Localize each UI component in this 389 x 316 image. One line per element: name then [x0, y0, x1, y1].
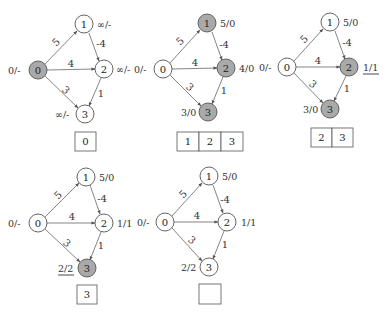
queue-item: 0	[82, 136, 88, 147]
panel-step-1: 5 -4 4 3 1 0 0/- 1 ∞/- 2 ∞/- 3 ∞/- 0	[8, 15, 130, 151]
distance-label: ∞/-	[97, 19, 111, 30]
graph-node: 2 1/1	[340, 58, 379, 76]
distance-label: ∞/-	[55, 109, 69, 120]
graph-node: 2 1/1	[95, 214, 132, 232]
graph-node: 1 5/0	[321, 13, 358, 31]
edge-weight: 5	[177, 188, 189, 200]
distance-label: 1/1	[363, 62, 378, 73]
node-label: 2	[346, 62, 352, 73]
node-label: 2	[223, 63, 229, 74]
queue-box: 2 3	[311, 128, 353, 147]
graph-node: 3 3/0	[303, 100, 339, 118]
node-label: 0	[35, 218, 41, 229]
graph-node: 3 3/0	[181, 103, 217, 121]
graph-node: 2 1/1	[218, 213, 256, 231]
node-label: 3	[206, 262, 212, 273]
edge-weight: -4	[97, 193, 107, 204]
node-label: 2	[101, 218, 107, 229]
queue-item: 2	[207, 136, 213, 147]
node-label: 0	[284, 62, 290, 73]
distance-label: 0/-	[134, 64, 146, 75]
distance-label: 2/2	[58, 263, 73, 274]
graph-node: 0 0/-	[8, 61, 47, 79]
node-label: 1	[81, 19, 87, 30]
queue-item: 3	[84, 289, 90, 300]
graph-node: 0 0/-	[8, 214, 47, 232]
graph-node: 0 0/-	[259, 58, 296, 76]
edge-0-3	[170, 75, 201, 106]
distance-label: 3/0	[181, 107, 196, 118]
queue-item: 3	[339, 132, 345, 143]
node-label: 1	[204, 18, 210, 29]
edge-weight: -4	[220, 194, 230, 205]
edge-weight: 4	[194, 210, 200, 221]
queue-box: 0	[75, 132, 96, 151]
panel-step-4: 5 -4 4 3 1 0 0/- 1 5/0 2 1/1 3 2/2 3	[8, 168, 132, 304]
node-label: 3	[205, 107, 211, 118]
node-label: 2	[224, 217, 230, 228]
node-label: 1	[206, 171, 212, 182]
edge-weight: 3	[184, 81, 196, 94]
graph-node: 1 ∞/-	[75, 15, 111, 33]
distance-label: 5/0	[220, 18, 235, 29]
edge-0-2	[47, 69, 95, 70]
node-label: 3	[327, 104, 333, 115]
edge-weight: 5	[174, 35, 186, 47]
queue-item: 1	[185, 136, 191, 147]
distance-label: 2/2	[181, 262, 196, 273]
distance-label: 5/0	[222, 171, 237, 182]
distance-label: 0/-	[8, 65, 20, 76]
edge-weight: 1	[221, 85, 227, 96]
edge-weight: -4	[342, 37, 352, 48]
node-label: 0	[160, 64, 166, 75]
graph-node: 3 2/2	[181, 258, 218, 276]
edge-weight: 1	[98, 240, 104, 251]
edge-weight: 3	[61, 237, 73, 250]
queue-item: 2	[318, 132, 324, 143]
distance-label: 1/1	[117, 218, 132, 229]
edge-weight: -4	[219, 39, 229, 50]
edge-weight: 1	[98, 88, 104, 99]
edge-weight: 1	[222, 239, 228, 250]
node-label: 0	[35, 65, 41, 76]
edge-weight: 5	[298, 33, 310, 45]
edge-weight: -4	[96, 38, 106, 49]
distance-label: 1/1	[241, 217, 256, 228]
edge-weight: 4	[69, 211, 75, 222]
spfa-diagram: 5 -4 4 3 1 0 0/- 1 ∞/- 2 ∞/- 3 ∞/- 0	[0, 0, 389, 316]
node-label: 1	[327, 17, 333, 28]
graph-node: 0 0/-	[134, 60, 172, 78]
graph-node: 0 0/-	[137, 213, 174, 231]
queue-box	[199, 284, 221, 304]
edge-weight: 5	[50, 36, 62, 48]
distance-label: 4/0	[239, 63, 254, 74]
graph-node: 2 4/0	[217, 59, 254, 77]
edge-0-3	[172, 228, 202, 261]
queue-box: 3	[77, 285, 97, 304]
graph-node: 1 5/0	[198, 14, 235, 32]
edge-weight: 4	[315, 55, 321, 66]
node-label: 1	[83, 172, 89, 183]
graph-node: 2 ∞/-	[95, 60, 130, 78]
queue-cell-empty	[199, 284, 221, 304]
edge-weight: 4	[192, 57, 198, 68]
distance-label: 0/-	[259, 62, 271, 73]
node-label: 3	[82, 109, 88, 120]
distance-label: 0/-	[8, 218, 20, 229]
node-label: 2	[101, 64, 107, 75]
edge-weight: 3	[186, 234, 198, 247]
edge-weight: 1	[344, 83, 350, 94]
distance-label: 0/-	[137, 217, 149, 228]
edge-weight: 4	[68, 58, 74, 69]
graph-node: 3 ∞/-	[55, 105, 94, 123]
graph-node: 1 5/0	[77, 168, 114, 186]
queue-box: 1 2 3	[177, 132, 243, 151]
node-label: 3	[84, 263, 90, 274]
distance-label: 5/0	[99, 172, 114, 183]
distance-label: 3/0	[303, 104, 318, 115]
node-label: 0	[162, 217, 168, 228]
edge-0-3	[294, 73, 323, 103]
distance-label: ∞/-	[116, 64, 130, 75]
distance-label: 5/0	[343, 17, 358, 28]
panel-step-3: 5 -4 4 3 1 0 0/- 1 5/0 2 1/1 3 3/0	[259, 13, 379, 147]
